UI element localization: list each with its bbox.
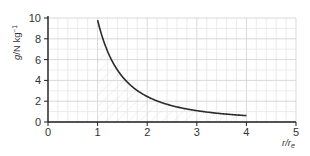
y-tick-label: 10 [29,12,41,24]
x-axis-label: r/re [282,137,295,149]
y-tick-label: 8 [35,33,41,45]
x-tick-label: 2 [144,126,150,138]
y-tick-label: 4 [35,74,41,86]
x-tick-label: 3 [194,126,200,138]
x-tick-label: 0 [45,126,51,138]
chart: 0246810012345 g/N kg−1 r/re [0,0,310,156]
x-tick-label: 4 [243,126,249,138]
y-tick-label: 6 [35,54,41,66]
x-tick-label: 1 [95,126,101,138]
x-tick-label: 5 [293,126,299,138]
shaded-area [98,20,247,122]
y-tick-label: 0 [35,116,41,128]
y-axis-label: g/N kg−1 [11,25,22,60]
y-tick-label: 2 [35,95,41,107]
